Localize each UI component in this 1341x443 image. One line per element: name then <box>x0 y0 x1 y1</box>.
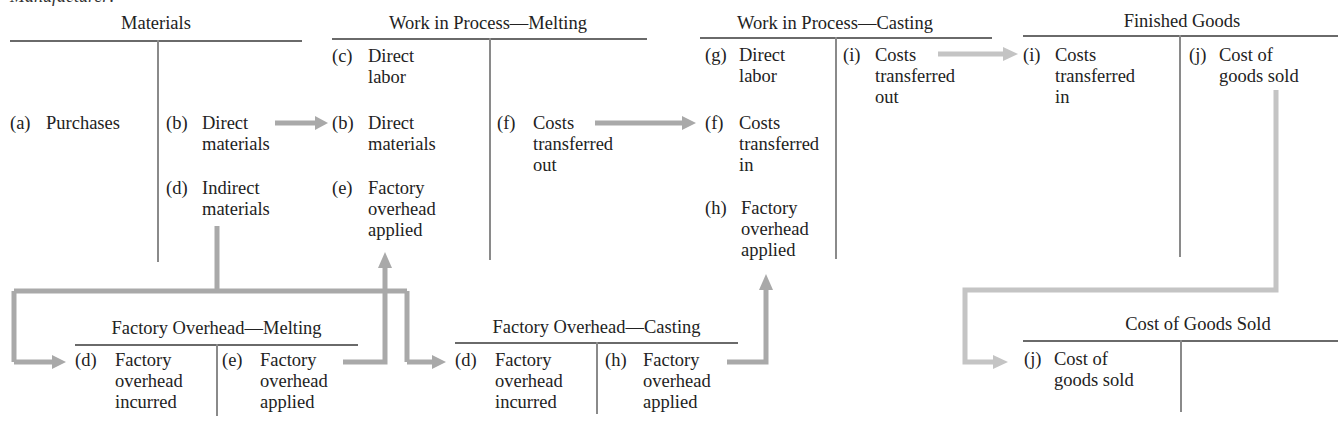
account-title: Factory Overhead—Melting <box>75 317 358 339</box>
account-rule <box>1023 35 1338 37</box>
account-divider <box>1180 340 1182 412</box>
entry-costs-transferred-out: (f)Coststransferredout <box>497 113 613 176</box>
entry-indirect-materials: (d)Indirectmaterials <box>166 178 270 220</box>
account-title: Work in Process—Casting <box>700 12 970 34</box>
entry-factory-overhead-applied: (e)Factoryoverheadapplied <box>332 178 436 241</box>
entry-costs-transferred-out: (i)Coststransferredout <box>843 45 955 108</box>
account-title: Materials <box>10 12 302 34</box>
account-divider <box>489 38 491 260</box>
account-divider <box>1179 35 1181 257</box>
entry-factory-overhead-incurred: (d)Factoryoverheadincurred <box>455 350 563 413</box>
entry-factory-overhead-applied: (h)Factoryoverheadapplied <box>605 350 711 413</box>
entry-costs-transferred-in: (i)Coststransferredin <box>1023 45 1135 108</box>
entry-factory-overhead-applied: (h)Factoryoverheadapplied <box>705 198 809 261</box>
entry-direct-materials: (b)Directmaterials <box>332 113 436 155</box>
account-divider <box>835 37 837 259</box>
entry-factory-overhead-applied: (e)Factoryoverheadapplied <box>222 350 328 413</box>
entry-direct-labor: (g)Directlabor <box>705 45 785 87</box>
account-title: Finished Goods <box>1023 10 1341 32</box>
account-rule <box>10 40 302 42</box>
entry-costs-transferred-in: (f)Coststransferredin <box>705 113 819 176</box>
entry-purchases: (a)Purchases <box>10 113 120 134</box>
entry-direct-materials: (b)Directmaterials <box>166 113 270 155</box>
entry-cost-of-goods-sold: (j)Cost ofgoods sold <box>1189 45 1299 87</box>
account-title: Work in Process—Melting <box>332 12 644 34</box>
account-rule <box>700 37 992 39</box>
entry-factory-overhead-incurred: (d)Factoryoverheadincurred <box>75 350 183 413</box>
account-title: Cost of Goods Sold <box>1083 313 1313 335</box>
account-divider <box>157 40 159 262</box>
entry-direct-labor: (c)Directlabor <box>332 46 414 88</box>
entry-cost-of-goods-sold: (j)Cost ofgoods sold <box>1024 349 1134 391</box>
account-title: Factory Overhead—Casting <box>455 316 738 338</box>
account-divider <box>216 344 218 416</box>
arrow-foh-melting-applied <box>343 268 385 362</box>
account-divider <box>596 342 598 414</box>
